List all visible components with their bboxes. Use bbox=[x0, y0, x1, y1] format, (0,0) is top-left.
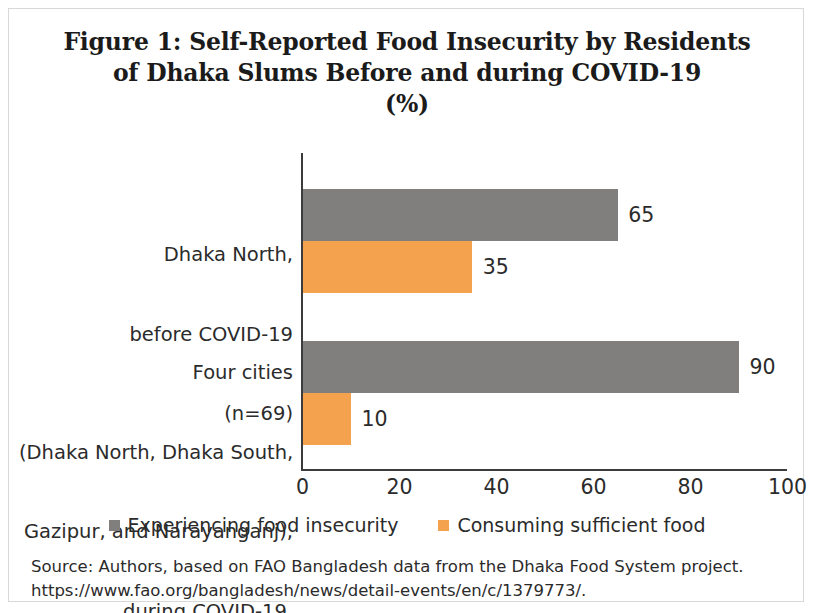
chart-title-line-3: (%) bbox=[9, 89, 805, 120]
x-tick-80: 80 bbox=[678, 475, 704, 499]
legend-item-insecurity: Experiencing food insecurity bbox=[109, 514, 399, 536]
legend-label-sufficient: Consuming sufficient food bbox=[457, 514, 705, 536]
bar-insecurity-group-1 bbox=[303, 189, 618, 241]
x-tick-0: 0 bbox=[296, 475, 309, 499]
chart-title-line-1: Figure 1: Self-Reported Food Insecurity … bbox=[9, 27, 805, 58]
bar-value-sufficient-group-2: 10 bbox=[362, 393, 388, 445]
x-tick-60: 60 bbox=[581, 475, 607, 499]
source-note-line-1: Source: Authors, based on FAO Bangladesh… bbox=[31, 555, 771, 579]
figure-container: Figure 1: Self-Reported Food Insecurity … bbox=[8, 8, 804, 602]
chart-title: Figure 1: Self-Reported Food Insecurity … bbox=[9, 27, 805, 120]
source-note-line-2: https://www.fao.org/bangladesh/news/deta… bbox=[31, 579, 771, 603]
x-tick-100: 100 bbox=[768, 475, 807, 499]
legend-swatch-icon-sufficient bbox=[438, 520, 449, 531]
x-tick-40: 40 bbox=[484, 475, 510, 499]
legend-item-sufficient: Consuming sufficient food bbox=[438, 514, 705, 536]
x-tick-20: 20 bbox=[387, 475, 413, 499]
chart-title-line-2: of Dhaka Slums Before and during COVID-1… bbox=[9, 58, 805, 89]
category-label-line: (Dhaka North, Dhaka South, bbox=[19, 440, 293, 467]
plot-area: 65 35 90 10 bbox=[301, 153, 786, 469]
bar-sufficient-group-2 bbox=[303, 393, 352, 445]
x-axis-tick-labels: 0 20 40 60 80 100 bbox=[301, 475, 787, 505]
legend-swatch-icon-insecurity bbox=[109, 520, 120, 531]
chart-legend: Experiencing food insecurity Consuming s… bbox=[9, 514, 805, 536]
bar-value-insecurity-group-2: 90 bbox=[750, 341, 776, 393]
source-note: Source: Authors, based on FAO Bangladesh… bbox=[31, 555, 771, 603]
bar-sufficient-group-1 bbox=[303, 241, 473, 293]
category-label-line: Dhaka North, bbox=[19, 242, 293, 269]
bar-value-insecurity-group-1: 65 bbox=[628, 189, 654, 241]
bar-insecurity-group-2 bbox=[303, 341, 740, 393]
x-axis-line bbox=[301, 469, 787, 471]
legend-label-insecurity: Experiencing food insecurity bbox=[128, 514, 399, 536]
bar-value-sufficient-group-1: 35 bbox=[483, 241, 509, 293]
category-label-line: Four cities bbox=[19, 360, 293, 387]
